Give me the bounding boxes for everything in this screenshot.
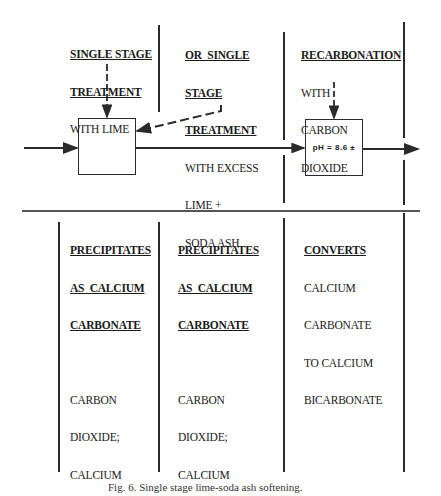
figure-caption: Fig. 6. Single stage lime-soda ash softe… (108, 481, 303, 493)
divider-line-b-top (283, 32, 285, 140)
divider-line-a-top (158, 25, 160, 112)
label-recarbonation: RECARBONATION WITH CARBON DIOXIDE (301, 24, 401, 187)
divider-line-c-bottom (403, 213, 405, 472)
divider-line-left (58, 222, 60, 472)
divider-line-b-bottom (283, 218, 285, 472)
divider-line-c-mid (403, 160, 405, 205)
column-3-converts: CONVERTS CALCIUM CARBONATE TO CALCIUM BI… (304, 219, 382, 419)
divider-line-c-top (403, 22, 405, 138)
divider-line-b-mid (283, 155, 285, 203)
column-1-precipitates: PRECIPITATES AS CALCIUM CARBONATE CARBON… (70, 219, 151, 496)
column-2-precipitates: PRECIPITATES AS CALCIUM CARBONATE CARBON… (178, 219, 267, 496)
divider-line-a-bottom (158, 222, 160, 472)
label-single-stage-lime: SINGLE STAGE TREATMENT WITH LIME (70, 23, 152, 148)
